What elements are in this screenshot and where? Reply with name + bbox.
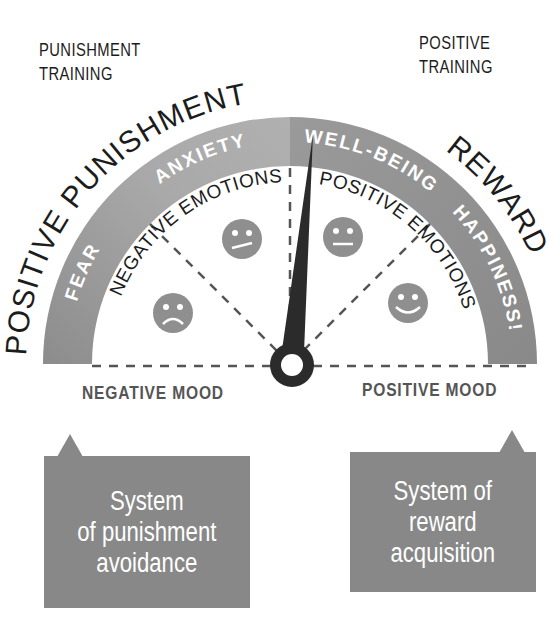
happy-face-icon [388, 283, 428, 323]
sad-face-icon [153, 293, 193, 333]
confused-face-icon [222, 219, 262, 259]
punishment-avoidance-bubble: System of punishment avoidance [44, 456, 250, 608]
reward-acquisition-bubble: System of reward acquisition [350, 452, 536, 592]
neutral-face-icon [323, 217, 363, 257]
punishment-avoidance-text: System of punishment avoidance [77, 486, 216, 579]
reward-acquisition-text: System of reward acquisition [391, 476, 496, 569]
left-bubble-tail [57, 434, 83, 457]
negative-mood-label: NEGATIVE MOOD [82, 382, 224, 404]
right-bubble-tail [499, 430, 525, 453]
positive-mood-label: POSITIVE MOOD [362, 379, 497, 401]
